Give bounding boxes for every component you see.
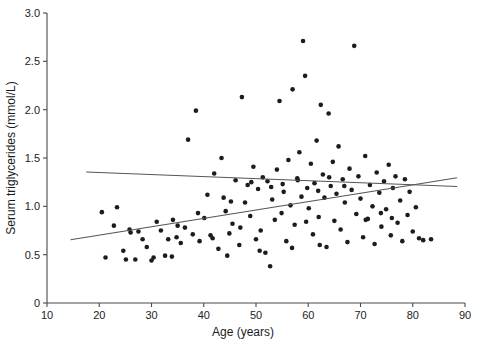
- data-point-layer: [100, 39, 434, 269]
- data-point: [304, 220, 309, 225]
- data-point: [279, 211, 284, 216]
- data-point: [194, 108, 199, 113]
- data-point: [227, 231, 232, 236]
- data-point: [321, 172, 326, 177]
- data-point: [225, 253, 230, 258]
- data-point: [309, 162, 314, 167]
- data-point: [186, 137, 191, 142]
- scatter-plot-figure: 00.51.01.52.02.53.0 102030405060708090 A…: [0, 0, 477, 349]
- rising-fit-line: [71, 178, 458, 240]
- data-point: [149, 258, 154, 263]
- data-point: [210, 236, 215, 241]
- data-point: [316, 189, 321, 194]
- data-point: [270, 197, 275, 202]
- x-tick-label: 30: [145, 309, 157, 321]
- data-point: [140, 237, 145, 242]
- data-point: [245, 183, 250, 188]
- data-point: [342, 184, 347, 189]
- data-point: [297, 150, 302, 155]
- x-tick-layer: 102030405060708090: [41, 303, 471, 321]
- y-tick-label: 2.5: [25, 55, 40, 67]
- y-axis-title: Serum triglycerides (mmol/L): [4, 81, 18, 234]
- data-point: [382, 179, 387, 184]
- data-point: [196, 211, 201, 216]
- data-point: [336, 144, 341, 149]
- data-point: [174, 235, 179, 240]
- data-point: [334, 191, 339, 196]
- data-point: [314, 138, 319, 143]
- y-tick-label: 2.0: [25, 104, 40, 116]
- data-point: [229, 199, 234, 204]
- data-point: [103, 255, 108, 260]
- x-tick-label: 10: [41, 309, 53, 321]
- data-point: [301, 39, 306, 44]
- data-point: [277, 99, 282, 104]
- data-point: [238, 225, 243, 230]
- data-point: [221, 195, 226, 200]
- data-point: [275, 167, 280, 172]
- data-point: [197, 239, 202, 244]
- chart-canvas: 00.51.01.52.02.53.0 102030405060708090 A…: [0, 0, 477, 349]
- data-point: [328, 184, 333, 189]
- x-tick-label: 40: [198, 309, 210, 321]
- data-point: [407, 190, 412, 195]
- data-point: [216, 247, 221, 252]
- x-tick-label: 20: [93, 309, 105, 321]
- data-point: [305, 186, 310, 191]
- data-point: [159, 228, 164, 233]
- data-point: [389, 233, 394, 238]
- data-point: [384, 207, 389, 212]
- data-point: [311, 232, 316, 237]
- data-point: [243, 200, 248, 205]
- data-point: [166, 237, 171, 242]
- data-point: [414, 205, 419, 210]
- x-tick-label: 90: [459, 309, 471, 321]
- data-point: [112, 223, 117, 228]
- data-point: [292, 222, 297, 227]
- data-point: [219, 156, 224, 161]
- flat-fit-line: [86, 172, 457, 187]
- data-point: [331, 160, 336, 165]
- data-point: [429, 237, 434, 242]
- data-point: [269, 185, 274, 190]
- data-point: [136, 229, 141, 234]
- data-point: [352, 44, 357, 49]
- y-tick-label: 0.5: [25, 249, 40, 261]
- data-point: [178, 241, 183, 246]
- data-point: [286, 158, 291, 163]
- data-point: [284, 239, 289, 244]
- data-point: [212, 171, 217, 176]
- data-point: [340, 177, 345, 182]
- y-tick-label: 1.0: [25, 200, 40, 212]
- data-point: [324, 245, 329, 250]
- data-point: [379, 211, 384, 216]
- data-point: [354, 212, 359, 217]
- x-tick-label: 60: [302, 309, 314, 321]
- data-point: [363, 154, 368, 159]
- data-point: [163, 253, 168, 258]
- x-axis-title: Age (years): [212, 325, 274, 339]
- data-point: [370, 204, 375, 209]
- data-point: [273, 218, 278, 223]
- data-point: [390, 216, 395, 221]
- data-point: [361, 235, 366, 240]
- data-point: [345, 240, 350, 245]
- data-point: [316, 215, 321, 220]
- data-point: [356, 174, 361, 179]
- data-point: [290, 87, 295, 92]
- data-point: [256, 187, 261, 192]
- data-point: [230, 221, 235, 226]
- data-point: [175, 223, 180, 228]
- data-point: [347, 166, 352, 171]
- data-point: [280, 182, 285, 187]
- data-point: [205, 192, 210, 197]
- data-point: [223, 209, 228, 214]
- data-point: [233, 178, 238, 183]
- data-point: [170, 254, 175, 259]
- data-point: [410, 229, 415, 234]
- data-point: [318, 103, 323, 108]
- data-point: [363, 218, 368, 223]
- x-tick-label: 50: [250, 309, 262, 321]
- data-point: [257, 249, 262, 254]
- data-point: [121, 249, 126, 254]
